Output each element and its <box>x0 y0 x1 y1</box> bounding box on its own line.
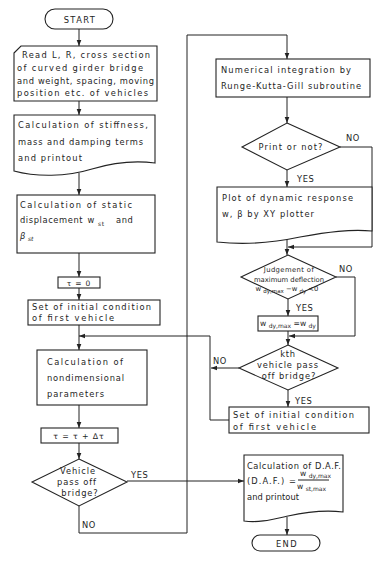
kth-line-3: off bridge? <box>262 371 316 381</box>
judgement-less-than-zero: <0 <box>308 285 318 293</box>
read-input-line-1: Read L, R, cross section <box>22 50 150 60</box>
daf-denominator-sub: st,max <box>306 485 327 492</box>
update-sub-max: dy,max <box>269 322 292 330</box>
static-w-symbol: w <box>87 215 94 225</box>
daf-numerator-sub: dy,max <box>309 472 332 480</box>
beta-subscript: st <box>28 235 34 242</box>
update-max-box: w dy,max =w dy <box>258 316 318 331</box>
judgement-minus-w: −w <box>286 285 298 293</box>
start-label: START <box>64 15 97 25</box>
initial-condition-left-line-1: Set of initial condition <box>32 302 151 312</box>
plot-line-1: Plot of dynamic response <box>222 193 353 203</box>
vehicle-pass-line-1: Vehicle <box>60 466 96 476</box>
nondimensional-line-3: parameters <box>47 389 104 399</box>
nondimensional-line-2: nondimensional <box>47 373 124 383</box>
print-decision-label: Print or not? <box>258 142 323 152</box>
tau-init-box: τ = 0 <box>58 277 100 288</box>
static-w-subscript: st <box>98 220 105 227</box>
end-label: END <box>276 539 298 549</box>
tau-increment-label: τ = τ + Δτ <box>53 432 104 441</box>
static-line-2-text: displacement <box>20 215 83 225</box>
daf-calc-box: Calculation of D.A.F. (D.A.F.) = w dy,ma… <box>244 455 343 522</box>
stiffness-line-2: mass and damping terms <box>18 137 143 147</box>
daf-line-3: and printout <box>247 492 300 502</box>
vehicle-pass-decision: Vehicle pass off bridge? <box>32 459 127 506</box>
numerical-integration-box: Numerical integration by Runge-Kutta-Gil… <box>216 59 370 97</box>
static-line-1: Calculation of static <box>20 200 132 210</box>
daf-line-1: Calculation of D.A.F. <box>247 461 341 471</box>
stiffness-calc-box: Calculation of stiffness, mass and dampi… <box>14 115 155 175</box>
stiffness-line-3: and printout <box>18 153 83 163</box>
judgement-w-max: w <box>256 285 262 293</box>
kth-vehicle-decision: kth vehicle pass off bridge? <box>239 345 338 390</box>
read-input-line-4: position etc. of vehicles <box>17 88 148 98</box>
static-displacement-box: Calculation of static displacement w st … <box>17 195 155 253</box>
judgement-line-2: maximum deflection <box>254 276 324 284</box>
judgement-decision: Judgement of maximum deflection w dy,max… <box>241 255 336 299</box>
plot-line-2: w, β by XY plotter <box>222 209 315 219</box>
initial-condition-right-line-1: Set of initial condition <box>233 410 354 420</box>
update-sub-dy: dy <box>309 322 317 330</box>
beta-symbol: β <box>19 231 26 241</box>
read-input-line-2: of curved girder bridge <box>17 63 143 73</box>
judgement-yes-label: YES <box>295 303 313 313</box>
judgement-sub-dy: dy <box>299 288 306 295</box>
update-equals-w: =w <box>294 319 307 328</box>
daf-numerator: w dy,max <box>300 469 331 480</box>
judgement-no-label: NO <box>339 264 353 274</box>
vehicle-pass-line-2: pass off <box>57 477 97 487</box>
kth-line-1: kth <box>280 349 296 359</box>
start-terminal: START <box>45 9 113 29</box>
integration-line-2: Runge-Kutta-Gill subroutine <box>221 81 361 91</box>
daf-denominator-w: w <box>297 482 303 491</box>
flowchart-canvas: START Read L, R, cross section of curved… <box>0 0 382 564</box>
read-input-box: Read L, R, cross section of curved girde… <box>14 46 157 101</box>
kth-yes-label: YES <box>294 396 312 406</box>
tau-increment-box: τ = τ + Δτ <box>41 428 118 443</box>
read-input-line-3: and weight, spacing, moving <box>17 76 154 86</box>
print-no-label: NO <box>346 133 360 143</box>
print-decision: Print or not? <box>242 123 340 170</box>
plot-response-box: Plot of dynamic response w, β by XY plot… <box>217 187 372 243</box>
integration-line-1: Numerical integration by <box>221 65 351 75</box>
kth-no-label: NO <box>213 356 227 366</box>
vehicle-pass-yes-label: YES <box>130 470 148 480</box>
vehicle-pass-no-label: NO <box>82 520 96 530</box>
judgement-sub-max: dy,max <box>263 288 284 295</box>
vehicle-pass-line-3: bridge? <box>61 488 98 498</box>
update-w-max: w <box>260 319 266 328</box>
initial-condition-right-box: Set of initial condition of first vehicl… <box>229 407 369 433</box>
judgement-line-1: Judgement of <box>263 266 315 274</box>
daf-numerator-w: w <box>300 469 306 478</box>
kth-line-2: vehicle pass <box>257 360 319 370</box>
print-yes-label: YES <box>296 174 314 184</box>
tau-init-label: τ = 0 <box>67 279 91 288</box>
initial-condition-left-box: Set of initial condition of first vehicl… <box>28 300 160 325</box>
static-line-2-end: and <box>116 215 133 225</box>
end-terminal: END <box>252 535 320 551</box>
daf-line-2: (D.A.F.) = <box>247 476 296 486</box>
nondimensional-calc-box: Calculation of nondimensional parameters <box>37 350 147 405</box>
